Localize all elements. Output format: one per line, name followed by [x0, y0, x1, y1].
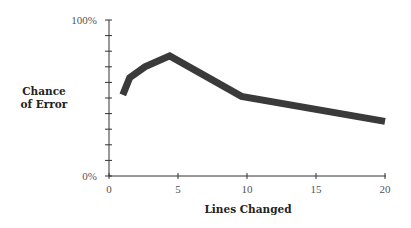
x-axis-title: Lines Changed [204, 203, 292, 215]
y-axis-title-line2: of Error [21, 98, 68, 110]
chart: 05101520 100% 0% Chance of Error Lines C… [0, 0, 411, 228]
x-tick-label: 10 [242, 183, 254, 195]
y-tick-label-100: 100% [71, 14, 97, 26]
x-tick-label: 20 [380, 183, 392, 195]
error-rate-line [123, 56, 385, 122]
y-axis-title-line1: Chance [22, 85, 66, 97]
x-tick-label: 15 [311, 183, 323, 195]
x-tick-label: 0 [106, 183, 112, 195]
x-tick-label: 5 [175, 183, 181, 195]
y-tick-label-0: 0% [82, 170, 97, 182]
